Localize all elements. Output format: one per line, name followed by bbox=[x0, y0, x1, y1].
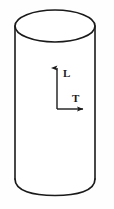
cylinder-top-ellipse bbox=[15, 10, 95, 42]
axis-label-longitudinal: L bbox=[63, 67, 70, 79]
axis-label-transverse: T bbox=[72, 92, 80, 104]
figure-canvas: L T bbox=[0, 0, 114, 209]
cylinder-orientation-figure: L T bbox=[0, 0, 114, 209]
cylinder-body-fill bbox=[15, 26, 95, 196]
